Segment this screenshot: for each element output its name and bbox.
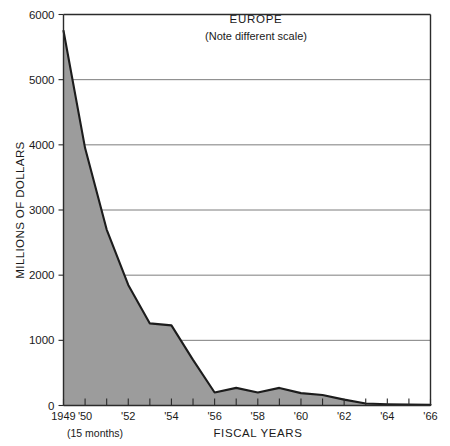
x-axis-footnote: (15 months) [67,427,123,439]
y-tick-label-3000: 3000 [29,204,55,216]
x-tick-label-1950: '50 [78,410,92,422]
x-tick-label-1952: '52 [121,410,135,422]
plot-area [64,31,431,406]
x-tick-label-1964: '64 [380,410,394,422]
x-tick-label-1966: '66 [423,410,437,422]
x-tick-label-1956: '56 [207,410,221,422]
x-tick-label-1954: '54 [164,410,178,422]
chart-title: EUROPE [230,13,283,25]
x-axis-title: FISCAL YEARS [213,427,302,439]
chart-container: 0100020003000400050006000 1949'50'52'54'… [0,0,450,446]
y-axis-ticks: 0100020003000400050006000 [29,9,64,412]
x-tick-label-1958: '58 [251,410,265,422]
y-tick-label-1000: 1000 [29,334,55,346]
y-tick-label-4000: 4000 [29,139,55,151]
y-axis-title: MILLIONS OF DOLLARS [14,141,26,278]
x-tick-label-1962: '62 [337,410,351,422]
series-area-europe-aid [64,31,431,406]
y-tick-label-2000: 2000 [29,269,55,281]
x-tick-label-1960: '60 [294,410,308,422]
x-tick-label-1949: 1949 [51,410,75,422]
y-tick-label-6000: 6000 [29,9,55,21]
europe-aid-area-chart: 0100020003000400050006000 1949'50'52'54'… [0,0,450,446]
y-tick-label-5000: 5000 [29,74,55,86]
chart-subtitle: (Note different scale) [205,30,307,42]
